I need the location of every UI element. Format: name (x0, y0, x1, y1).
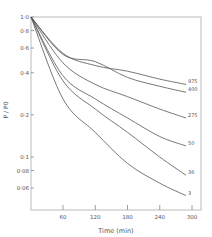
y-tick-label: 0·1 (20, 154, 29, 160)
series-label-36: 36 (188, 169, 194, 175)
series-label-50: 50 (188, 140, 194, 146)
y-tick-label: 0·4 (20, 70, 29, 76)
y-tick-label: 0·6 (20, 45, 29, 51)
series-label-975: 975 (188, 78, 198, 84)
series-line-400 (31, 17, 186, 92)
x-axis: 60120180240300 (60, 205, 198, 220)
series-label-400: 400 (188, 86, 198, 92)
series-line-3 (31, 17, 186, 196)
series-label-3: 3 (188, 190, 191, 196)
y-tick-label: 0·2 (20, 112, 29, 118)
series-lines (31, 17, 186, 196)
y-tick-label: 1·0 (20, 14, 29, 20)
x-tick-label: 240 (155, 214, 166, 220)
x-tick-label: 60 (60, 214, 67, 220)
y-tick-label: 0·8 (20, 28, 29, 34)
x-axis-label: Time (min) (97, 227, 133, 235)
y-axis-label: P / P0 (2, 101, 9, 118)
plot-frame (31, 17, 201, 210)
series-label-275: 275 (188, 112, 198, 118)
x-tick-label: 180 (122, 214, 133, 220)
line-chart: 1·00·80·60·40·20·10·080·06 6012018024030… (0, 0, 212, 237)
series-line-50 (31, 17, 186, 146)
chart-container: 1·00·80·60·40·20·10·080·06 6012018024030… (0, 0, 212, 237)
y-tick-label: 0·06 (17, 185, 30, 191)
series-line-975 (31, 17, 186, 84)
x-tick-label: 300 (187, 214, 198, 220)
series-line-36 (31, 17, 186, 175)
y-axis: 1·00·80·60·40·20·10·080·06 (17, 14, 34, 191)
series-labels: 97540027550363 (188, 78, 198, 195)
x-tick-label: 120 (90, 214, 101, 220)
y-tick-label: 0·08 (17, 168, 30, 174)
